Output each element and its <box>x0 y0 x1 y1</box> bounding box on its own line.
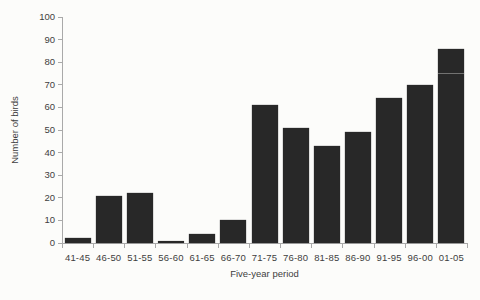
x-tick-mark <box>218 244 219 248</box>
y-tick-mark <box>58 62 62 63</box>
bar-46-50 <box>96 196 122 243</box>
y-tick-label: 20 <box>15 193 55 203</box>
y-tick-label: 50 <box>15 125 55 135</box>
bar-86-90 <box>345 132 371 243</box>
y-tick-label: 30 <box>15 170 55 180</box>
y-tick-mark <box>58 39 62 40</box>
y-tick-mark <box>58 17 62 18</box>
x-tick-mark <box>436 244 437 248</box>
bar-71-75 <box>252 105 278 243</box>
plot-area: 0102030405060708090100 41-4546-5051-5556… <box>62 17 467 243</box>
y-tick-mark <box>58 84 62 85</box>
bar-76-80 <box>283 128 309 243</box>
bar-96-00 <box>407 85 433 243</box>
x-tick-label: 91-95 <box>374 252 405 263</box>
x-tick-label: 51-55 <box>124 252 155 263</box>
bar-41-45 <box>65 238 91 243</box>
x-tick-label: 61-65 <box>187 252 218 263</box>
y-axis-line <box>62 17 63 244</box>
y-tick-label: 40 <box>15 148 55 158</box>
x-tick-mark <box>374 244 375 248</box>
y-tick-mark <box>58 107 62 108</box>
x-tick-label: 71-75 <box>249 252 280 263</box>
y-tick-label: 80 <box>15 57 55 67</box>
bar-56-60 <box>158 241 184 243</box>
x-tick-mark <box>405 244 406 248</box>
y-tick-mark <box>58 152 62 153</box>
x-tick-mark <box>187 244 188 248</box>
x-tick-label: 41-45 <box>62 252 93 263</box>
x-axis-line <box>62 243 468 244</box>
y-tick-mark <box>58 220 62 221</box>
x-axis-title: Five-year period <box>62 268 467 279</box>
x-tick-label: 01-05 <box>436 252 467 263</box>
x-tick-label: 46-50 <box>93 252 124 263</box>
x-tick-label: 66-70 <box>218 252 249 263</box>
y-tick-label: 70 <box>15 80 55 90</box>
bar-91-95 <box>376 98 402 243</box>
x-tick-mark <box>467 244 468 248</box>
x-tick-mark <box>62 244 63 248</box>
y-tick-mark <box>58 130 62 131</box>
x-tick-label: 81-85 <box>311 252 342 263</box>
x-tick-label: 96-00 <box>405 252 436 263</box>
y-tick-mark <box>58 175 62 176</box>
bar-61-65 <box>189 234 215 243</box>
x-tick-mark <box>93 244 94 248</box>
x-tick-mark <box>311 244 312 248</box>
x-tick-mark <box>124 244 125 248</box>
y-tick-mark <box>58 197 62 198</box>
x-tick-mark <box>155 244 156 248</box>
y-tick-label: 100 <box>15 12 55 22</box>
bar-81-85 <box>314 146 340 243</box>
x-tick-mark <box>342 244 343 248</box>
x-tick-mark <box>249 244 250 248</box>
y-tick-label: 90 <box>15 35 55 45</box>
x-tick-label: 76-80 <box>280 252 311 263</box>
bar-chart-figure: Number of birds 0102030405060708090100 4… <box>0 0 480 300</box>
y-tick-label: 10 <box>15 215 55 225</box>
x-tick-label: 56-60 <box>155 252 186 263</box>
x-tick-mark <box>280 244 281 248</box>
bar-01-05 <box>438 49 464 243</box>
y-tick-label: 60 <box>15 102 55 112</box>
bar-66-70 <box>220 220 246 243</box>
scan-artifact-line <box>438 73 464 74</box>
bar-51-55 <box>127 193 153 243</box>
y-tick-label: 0 <box>15 238 55 248</box>
x-tick-label: 86-90 <box>342 252 373 263</box>
